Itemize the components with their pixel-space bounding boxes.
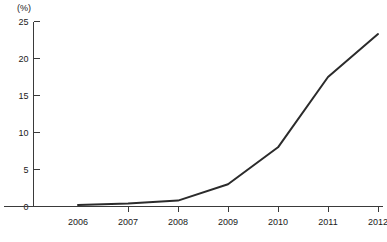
chart-canvas: 0510152025 2006200720082009201020112012 … xyxy=(0,0,387,242)
y-axis-tick-group: 0510152025 xyxy=(18,17,39,212)
line-chart: 0510152025 2006200720082009201020112012 … xyxy=(0,0,387,242)
x-axis-tick-label: 2007 xyxy=(118,217,138,227)
y-axis-unit-label: (%) xyxy=(17,3,31,13)
x-axis-tick-label: 2011 xyxy=(318,217,337,227)
data-series-line xyxy=(78,34,378,205)
y-axis-tick-label: 15 xyxy=(18,91,28,101)
x-axis-tick-label: 2008 xyxy=(168,217,188,227)
x-axis-tick-label: 2009 xyxy=(218,217,238,227)
x-axis-tick-label: 2010 xyxy=(268,217,288,227)
y-axis-tick-label: 10 xyxy=(18,128,28,138)
x-axis-tick-label: 2006 xyxy=(68,217,88,227)
y-axis-tick-label: 5 xyxy=(23,165,28,175)
y-axis-tick-label: 25 xyxy=(18,17,28,27)
x-axis-tick-label: 2012 xyxy=(368,217,387,227)
y-axis-tick-label: 20 xyxy=(18,54,28,64)
x-axis-tick-group: 2006200720082009201020112012 xyxy=(68,207,387,227)
